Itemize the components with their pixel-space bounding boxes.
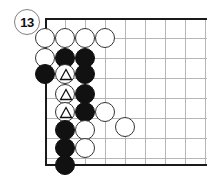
stone-black — [35, 64, 55, 84]
grid-line-vertical — [145, 18, 146, 165]
stone-white-triangle-marked — [55, 102, 75, 122]
stone-white — [55, 28, 75, 48]
stone-black — [75, 84, 95, 104]
stone-white-triangle-marked — [55, 84, 75, 104]
move-number-label: 13 — [20, 16, 33, 29]
grid-line-vertical — [165, 18, 166, 165]
go-board-diagram: 13 — [0, 0, 214, 185]
stone-white — [75, 138, 95, 158]
stone-white — [95, 28, 115, 48]
stone-white — [75, 120, 95, 140]
triangle-icon — [56, 65, 76, 85]
stone-white — [35, 28, 55, 48]
stone-black — [55, 120, 75, 140]
stone-white — [75, 28, 95, 48]
stone-white — [95, 102, 115, 122]
stone-white-triangle-marked — [55, 64, 75, 84]
grid-line-vertical — [205, 18, 206, 165]
board-edge-top — [45, 18, 207, 20]
stone-black — [75, 64, 95, 84]
stone-black — [75, 102, 95, 122]
stone-white — [115, 117, 135, 137]
grid-line-vertical — [185, 18, 186, 165]
grid-line-vertical — [125, 18, 126, 165]
stone-black — [55, 155, 75, 175]
